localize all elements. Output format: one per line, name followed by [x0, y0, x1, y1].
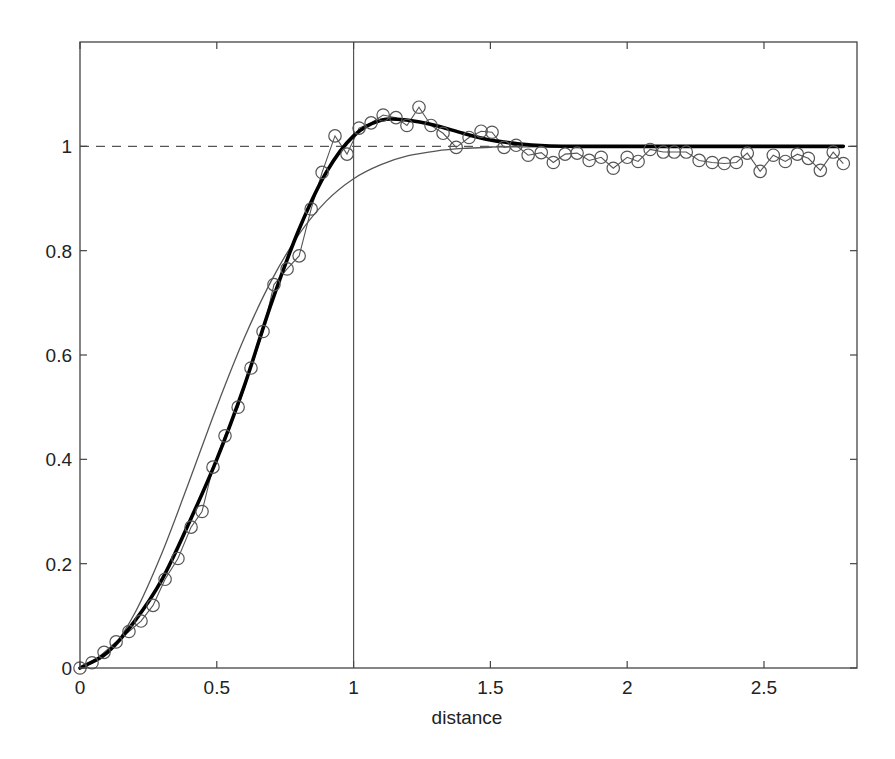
y-tick-label: 0.2: [46, 554, 72, 575]
x-tick-label: 2: [622, 677, 633, 698]
x-tick-label: 2.5: [751, 677, 777, 698]
y-tick-label: 0.4: [46, 449, 73, 470]
x-tick-label: 1: [348, 677, 359, 698]
x-axis: 00.511.522.5: [75, 42, 777, 698]
variogram-chart: 00.511.522.5 00.20.40.60.81 distance: [0, 0, 895, 759]
y-axis: 00.20.40.60.81: [46, 136, 857, 679]
plot-area: [74, 42, 857, 674]
y-tick-label: 0: [61, 658, 72, 679]
x-tick-label: 0: [75, 677, 86, 698]
fitted-model-curve: [80, 119, 843, 668]
empirical-line: [80, 107, 843, 668]
y-tick-label: 1: [61, 136, 72, 157]
y-tick-label: 0.6: [46, 345, 72, 366]
x-tick-label: 0.5: [204, 677, 230, 698]
gaussian-model-curve: [80, 146, 843, 668]
y-tick-label: 0.8: [46, 241, 72, 262]
x-tick-label: 1.5: [477, 677, 503, 698]
x-axis-label: distance: [432, 707, 503, 728]
